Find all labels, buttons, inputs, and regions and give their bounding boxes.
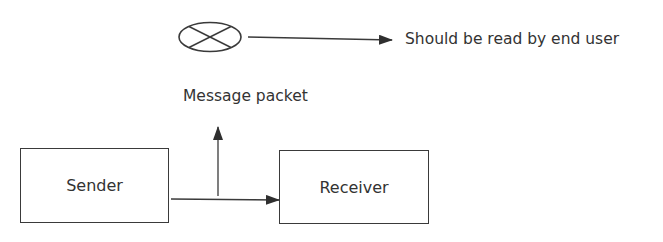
arrow-to-end-user bbox=[248, 37, 392, 40]
end-user-label: Should be read by end user bbox=[405, 32, 619, 48]
sender-label: Sender bbox=[66, 176, 123, 195]
crossed-circle-icon bbox=[179, 23, 241, 52]
sender-box: Sender bbox=[20, 148, 169, 223]
message-packet-label: Message packet bbox=[183, 89, 308, 105]
receiver-box: Receiver bbox=[279, 150, 429, 224]
receiver-label: Receiver bbox=[319, 178, 388, 197]
arrow-sender-to-receiver bbox=[171, 199, 279, 200]
